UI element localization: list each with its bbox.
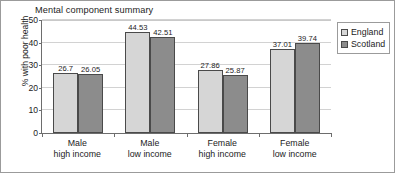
bar-england[interactable]: 44.53: [125, 32, 150, 133]
bar-value-label: 25.87: [226, 66, 245, 75]
legend-label-england: England: [351, 27, 383, 37]
bar-value-label: 42.51: [153, 28, 172, 37]
legend-swatch-england-icon: [341, 29, 348, 36]
x-axis-category-label-line: Female: [259, 138, 332, 149]
x-tick-mark: [259, 133, 260, 137]
y-tick-label: 30: [28, 60, 38, 70]
bar-group: 37.0139.74: [259, 20, 331, 133]
y-tick-label: 20: [28, 83, 38, 93]
legend-swatch-scotland-icon: [341, 41, 348, 48]
bar-scotland[interactable]: 42.51: [150, 37, 175, 133]
bar-group: 27.8625.87: [187, 20, 259, 133]
bar-value-label: 39.74: [298, 34, 317, 43]
x-axis-category-label-line: low income: [259, 149, 332, 160]
bar-value-label: 26.7: [58, 64, 73, 73]
bar-england[interactable]: 27.86: [198, 70, 223, 133]
x-axis-category-label: Malelow income: [114, 138, 187, 160]
bar-value-label: 27.86: [201, 61, 220, 70]
bar-value-label: 26.05: [81, 65, 100, 74]
y-tick-label: 0: [33, 128, 38, 138]
legend-item-england[interactable]: England: [341, 26, 385, 38]
legend-label-scotland: Scotland: [351, 39, 385, 49]
bar-england[interactable]: 26.7: [53, 73, 78, 133]
x-axis-category-label-line: low income: [114, 149, 187, 160]
bar-value-label: 44.53: [128, 23, 147, 32]
bar-chart-figure: Mental component summary % with poor hea…: [0, 0, 395, 173]
x-tick-mark: [114, 133, 115, 137]
x-axis-category-label-line: high income: [41, 149, 114, 160]
x-axis-category-label-line: high income: [186, 149, 259, 160]
bar-group: 44.5342.51: [114, 20, 186, 133]
x-axis-labels: Malehigh incomeMalelow incomeFemalehigh …: [41, 138, 331, 160]
y-tick-label: 10: [28, 105, 38, 115]
x-tick-mark: [187, 133, 188, 137]
x-tick-mark: [331, 133, 332, 137]
bar-scotland[interactable]: 26.05: [78, 74, 103, 133]
x-axis-category-label: Femalelow income: [259, 138, 332, 160]
x-axis-category-label-line: Male: [114, 138, 187, 149]
bar-value-label: 37.01: [273, 40, 292, 49]
chart-legend: England Scotland: [337, 22, 390, 54]
plot-area: 01020304050 26.726.0544.5342.5127.8625.8…: [41, 20, 331, 134]
bar-groups: 26.726.0544.5342.5127.8625.8737.0139.74: [42, 20, 331, 133]
x-axis-category-label: Malehigh income: [41, 138, 114, 160]
y-tick-label: 40: [28, 38, 38, 48]
bar-group: 26.726.05: [42, 20, 114, 133]
legend-item-scotland[interactable]: Scotland: [341, 38, 385, 50]
x-axis-category-label: Femalehigh income: [186, 138, 259, 160]
x-tick-mark: [42, 133, 43, 137]
y-tick-label: 50: [28, 15, 38, 25]
bar-scotland[interactable]: 39.74: [295, 43, 320, 133]
x-axis-category-label-line: Male: [41, 138, 114, 149]
chart-title: Mental component summary: [35, 5, 153, 15]
bar-england[interactable]: 37.01: [270, 49, 295, 133]
bar-scotland[interactable]: 25.87: [223, 75, 248, 133]
x-axis-category-label-line: Female: [186, 138, 259, 149]
